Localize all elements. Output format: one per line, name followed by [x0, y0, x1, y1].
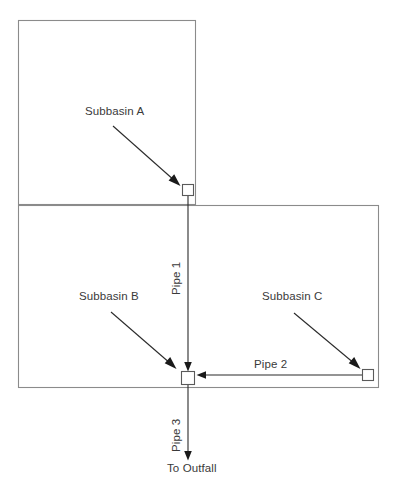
label-pipe-3: Pipe 3	[170, 419, 183, 452]
pipe-2-arrowhead	[197, 371, 207, 379]
junction-box-subbasin-a	[183, 185, 194, 196]
pipe-1-arrowhead	[184, 362, 192, 372]
leader-line-subbasin-a	[113, 126, 175, 181]
junction-box-confluence	[182, 372, 195, 385]
junction-box-subbasin-c	[363, 370, 374, 381]
subbasin-schematic-svg	[0, 0, 397, 495]
basin-outline-subbasin-bc	[19, 206, 379, 388]
label-pipe-1: Pipe 1	[170, 262, 183, 295]
leader-arrowhead-subbasin-c	[349, 357, 361, 369]
leader-arrowhead-subbasin-a	[169, 174, 181, 186]
leader-line-subbasin-c	[294, 313, 355, 364]
pipe-3-arrowhead	[184, 451, 192, 461]
leader-arrowhead-subbasin-b	[165, 357, 177, 369]
diagram-canvas: Subbasin A Subbasin B Subbasin C Pipe 1 …	[0, 0, 397, 495]
label-subbasin-c: Subbasin C	[262, 290, 322, 303]
label-subbasin-a: Subbasin A	[85, 105, 144, 118]
leader-line-subbasin-b	[111, 312, 171, 364]
label-subbasin-b: Subbasin B	[79, 290, 139, 303]
label-pipe-2: Pipe 2	[254, 358, 287, 371]
label-to-outfall: To Outfall	[167, 462, 217, 475]
